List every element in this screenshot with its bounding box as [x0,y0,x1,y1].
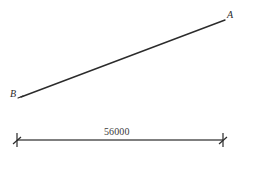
segment-ab-line [21,20,225,97]
dimension-value-label: 56000 [102,126,132,137]
point-label-b: B [10,89,16,99]
line-diagram-figure: A B 56000 [0,0,254,174]
point-label-a: A [227,10,233,20]
diagram-canvas [0,0,254,174]
